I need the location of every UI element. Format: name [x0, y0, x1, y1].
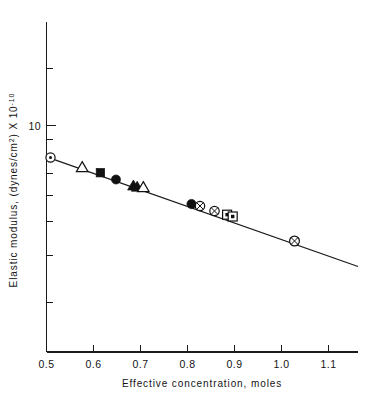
x-tick-label: 0.9 [227, 358, 243, 370]
y-axis-title: Elastic modulus, (dynes/cm2) X 10-10 [8, 93, 20, 288]
y-axis-title-mid: ) X 10 [8, 105, 19, 137]
marker-circle-dot [46, 153, 55, 162]
marker-circle-x [195, 201, 204, 210]
chart-figure: 10 0.5 0.6 0.7 0.8 0.9 1.0 1.1 Effective… [0, 0, 375, 397]
y-axis-ticks [47, 69, 57, 303]
x-tick-label: 1.1 [321, 358, 337, 370]
marker-circle-x [290, 236, 300, 246]
marker-square-dot [228, 212, 237, 221]
x-axis-title: Effective concentration, moles [122, 378, 282, 389]
axis-spines [47, 22, 359, 352]
y-tick-label-10: 10 [29, 120, 41, 132]
marker-circle-x [210, 206, 219, 215]
fit-line [47, 157, 359, 267]
x-tick-label: 0.6 [86, 358, 102, 370]
x-tick-label: 0.5 [39, 358, 55, 370]
x-tick-label: 0.7 [133, 358, 149, 370]
y-axis-title-sup-exp: -10 [8, 93, 15, 106]
svg-text:Elastic modulus, (dynes/cm2) X: Elastic modulus, (dynes/cm2) X 10-10 [8, 93, 20, 288]
y-axis-title-main: Elastic modulus, (dynes/cm [8, 142, 19, 287]
x-tick-label: 1.0 [274, 358, 290, 370]
marker-triangle-open [76, 162, 88, 172]
x-tick-labels: 0.5 0.6 0.7 0.8 0.9 1.0 1.1 [39, 358, 337, 370]
marker-square-filled [96, 169, 104, 177]
marker-circle-filled [112, 175, 121, 184]
x-axis-ticks [47, 345, 329, 352]
x-tick-label: 0.8 [180, 358, 196, 370]
marker-circle-filled [187, 199, 196, 208]
semilog-scatter-plot: 10 0.5 0.6 0.7 0.8 0.9 1.0 1.1 Effective… [0, 0, 375, 397]
